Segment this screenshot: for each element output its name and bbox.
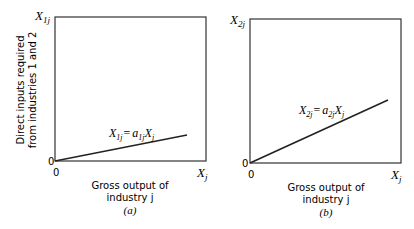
panel-b-equation: X2j=a2jXj	[298, 103, 345, 119]
panel-a-xlabel-line2: industry j	[107, 192, 154, 203]
panel-b: X2j 0 0 Xj X2j=a2jXj Gross output of ind…	[229, 12, 402, 219]
panel-b-x-axis-label: Xj	[390, 167, 402, 184]
panel-b-xlabel-line2: industry j	[303, 194, 350, 205]
panel-a-caption: (a)	[124, 204, 137, 217]
panel-a-origin-y: 0	[48, 156, 54, 167]
panel-b-caption: (b)	[320, 206, 333, 219]
panel-a-origin-x: 0	[53, 167, 59, 178]
panel-b-xlabel-line1: Gross output of	[287, 182, 365, 193]
panel-b-origin-y: 0	[242, 158, 248, 169]
panel-a-y-axis-label: X1j	[34, 8, 50, 25]
panel-a-equation: X1j=a1jXj	[108, 126, 155, 142]
y-label-line2: from industries 1 and 2	[27, 32, 38, 149]
diagram-canvas: X1j 0 0 Xj X1j=a1jXj Gross output of ind…	[0, 0, 414, 229]
y-label-line1: Direct inputs required	[15, 35, 26, 144]
panel-b-y-axis-label: X2j	[229, 12, 245, 29]
panel-a: X1j 0 0 Xj X1j=a1jXj Gross output of ind…	[34, 8, 208, 217]
shared-y-label: Direct inputs required from industries 1…	[15, 32, 38, 149]
panel-a-x-axis-label: Xj	[196, 165, 208, 182]
panel-b-origin-x: 0	[248, 169, 254, 180]
panel-b-frame	[250, 19, 401, 163]
panel-a-frame	[55, 17, 206, 161]
panel-a-xlabel-line1: Gross output of	[91, 180, 169, 191]
